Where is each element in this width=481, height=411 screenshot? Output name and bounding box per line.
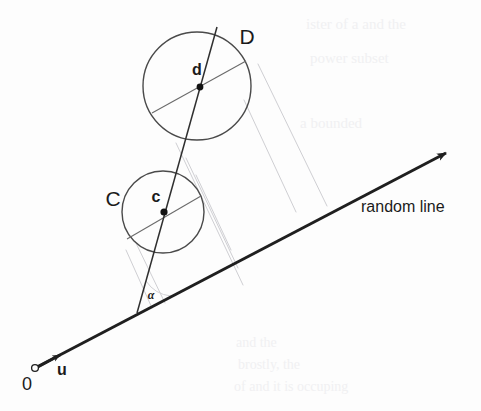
label-origin: 0: [22, 374, 32, 394]
center-point-d: [197, 84, 204, 91]
label-random-line: random line: [361, 198, 445, 215]
bleed-line-1: ister of a and the: [306, 16, 406, 32]
label-circle-d: D: [239, 25, 254, 48]
origin-point: [32, 365, 39, 372]
label-circle-c: C: [105, 187, 120, 210]
bleed-line-3: a bounded: [300, 115, 363, 131]
label-center-c: c: [152, 188, 161, 205]
label-center-d: d: [192, 61, 202, 78]
center-point-c: [160, 208, 167, 215]
label-vector-u: u: [57, 361, 67, 378]
bleed-line-2: power subset: [310, 50, 390, 66]
geometry-figure: ister of a and the power subset a bounde…: [0, 0, 481, 411]
bleed-line-6: of and it is occuping: [234, 379, 348, 394]
bleed-line-5: brostly, the: [238, 357, 300, 372]
bleed-line-4: and the: [236, 335, 277, 350]
label-angle-alpha: α: [148, 288, 155, 302]
figure-canvas: ister of a and the power subset a bounde…: [0, 0, 481, 411]
